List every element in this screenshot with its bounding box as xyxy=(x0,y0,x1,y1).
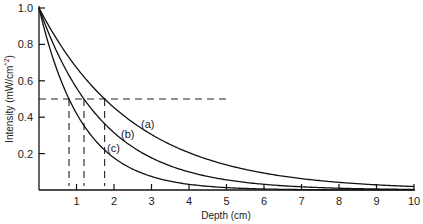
curve-label-c: (c) xyxy=(107,142,120,154)
intensity-depth-chart: 0.20.40.60.81.0 12345678910 (a) (b) (c) … xyxy=(0,0,423,224)
curve-label-a: (a) xyxy=(141,118,154,130)
x-tick-label: 10 xyxy=(408,195,420,207)
x-ticks: 12345678910 xyxy=(73,184,420,207)
x-tick-label: 7 xyxy=(298,195,304,207)
x-tick-label: 5 xyxy=(223,195,229,207)
x-tick-label: 1 xyxy=(73,195,79,207)
x-tick-label: 8 xyxy=(336,195,342,207)
x-tick-label: 2 xyxy=(111,195,117,207)
axes xyxy=(39,6,415,190)
y-axis-label-group: Intensity (mW/cm^2) xyxy=(3,55,15,143)
curve-b xyxy=(39,8,414,189)
x-tick-label: 6 xyxy=(261,195,267,207)
y-tick-label: 0.8 xyxy=(18,38,33,50)
curve-label-b: (b) xyxy=(121,128,134,140)
y-tick-label: 1.0 xyxy=(18,2,33,14)
y-axis-label: Intensity (mW/cm^2) xyxy=(3,55,15,143)
curve-a xyxy=(39,8,414,187)
x-tick-label: 3 xyxy=(148,195,154,207)
y-tick-label: 0.6 xyxy=(18,75,33,87)
x-axis-label: Depth (cm) xyxy=(201,210,250,221)
curve-c xyxy=(39,8,414,190)
x-tick-label: 9 xyxy=(373,195,379,207)
curves xyxy=(39,8,414,190)
y-tick-label: 0.4 xyxy=(18,111,33,123)
half-value-guides xyxy=(39,99,230,186)
y-ticks: 0.20.40.60.81.0 xyxy=(18,2,45,160)
y-tick-label: 0.2 xyxy=(18,148,33,160)
x-tick-label: 4 xyxy=(186,195,192,207)
